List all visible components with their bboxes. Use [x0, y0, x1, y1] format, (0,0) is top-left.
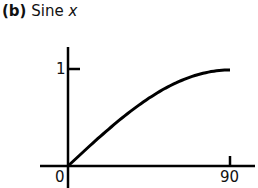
x-tick-label-90: 90 [220, 168, 239, 186]
y-tick-label-1: 1 [56, 60, 66, 78]
sine-curve [68, 70, 230, 166]
chart-plot [0, 0, 258, 188]
x-tick-label-0: 0 [55, 168, 65, 186]
